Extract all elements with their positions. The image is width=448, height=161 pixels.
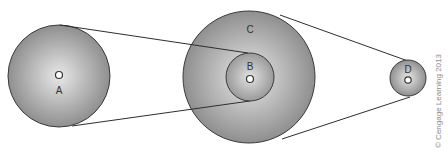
pulley-diagram: A C B D © Cengage Learning 2013 — [0, 0, 448, 161]
axle-b — [247, 76, 254, 83]
label-d: D — [404, 64, 411, 75]
label-b: B — [247, 61, 254, 72]
pulley-b: B — [226, 53, 274, 101]
pulley-d: D — [390, 60, 426, 96]
copyright-credit: © Cengage Learning 2013 — [434, 53, 443, 148]
axle-a — [56, 72, 63, 79]
axle-d — [405, 77, 411, 83]
pulley-a: A — [8, 25, 110, 127]
label-c: C — [246, 24, 253, 35]
label-a: A — [56, 85, 63, 96]
